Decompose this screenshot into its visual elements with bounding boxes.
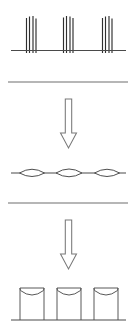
pillar-concave-top	[58, 291, 81, 296]
pillar-rim-left	[20, 288, 21, 291]
pillar-rim-left	[57, 288, 58, 291]
pillar	[94, 288, 118, 320]
pillar	[57, 288, 81, 320]
lens-shape	[20, 169, 45, 176]
process-schematic-svg	[0, 0, 137, 331]
stage-3-pillar-array	[11, 288, 126, 320]
stage-2-lens-features	[11, 169, 126, 177]
pillar-concave-top	[95, 291, 118, 296]
down-arrow-icon	[61, 99, 77, 148]
stage-1-filament-clusters	[11, 16, 126, 53]
lens-shape	[95, 169, 120, 176]
pillar-concave-top	[21, 291, 44, 296]
figure-root: Schematic diagram in three panels separa…	[0, 0, 137, 331]
pillar-rim-right	[44, 288, 45, 291]
pillar-rim-right	[118, 288, 119, 291]
down-arrow-icon	[61, 220, 77, 269]
cluster-3	[103, 16, 113, 53]
lens-shape	[56, 169, 82, 177]
pillar-rim-right	[81, 288, 82, 291]
cluster-1	[27, 16, 37, 53]
pillar	[20, 288, 44, 320]
cluster-2	[64, 16, 74, 53]
pillar-rim-left	[94, 288, 95, 291]
